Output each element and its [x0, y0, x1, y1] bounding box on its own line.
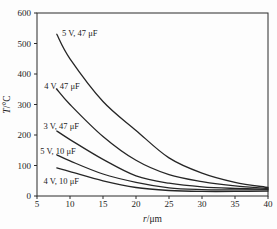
temperature-vs-radius-figure: 5101520253035400100200300400500600r/μmT/… [0, 0, 277, 229]
x-tick-label: 30 [198, 199, 208, 209]
x-tick-label: 15 [99, 199, 109, 209]
temperature-vs-radius-chart: 5101520253035400100200300400500600r/μmT/… [0, 0, 277, 229]
curve-4V-47uF [57, 89, 268, 188]
curve-label-3V-47uF: 3 V, 47 μF [44, 121, 80, 131]
y-tick-label: 600 [18, 8, 32, 18]
x-tick-label: 25 [165, 199, 175, 209]
x-tick-label: 35 [231, 199, 241, 209]
curve-label-4V-47uF: 4 V, 47 μF [44, 81, 80, 91]
y-tick-label: 400 [18, 69, 32, 79]
curve-label-5V-47uF: 5 V, 47 μF [62, 28, 98, 38]
curve-label-5V-10uF: 5 V, 10 μF [40, 146, 76, 156]
x-tick-label: 40 [264, 199, 274, 209]
y-tick-label: 500 [18, 39, 32, 49]
x-tick-label: 10 [66, 199, 76, 209]
curve-label-4V-10uF: 4 V, 10 μF [44, 176, 80, 186]
y-tick-label: 0 [27, 191, 32, 201]
curve-5V-47uF [57, 34, 268, 187]
x-tick-label: 20 [132, 199, 142, 209]
y-tick-label: 300 [18, 100, 32, 110]
y-axis-label: T/°C [2, 95, 12, 113]
curve-3V-47uF [57, 131, 268, 189]
x-axis-label: r/μm [143, 214, 162, 224]
y-tick-label: 100 [18, 161, 32, 171]
x-tick-label: 5 [35, 199, 40, 209]
y-tick-label: 200 [18, 130, 32, 140]
